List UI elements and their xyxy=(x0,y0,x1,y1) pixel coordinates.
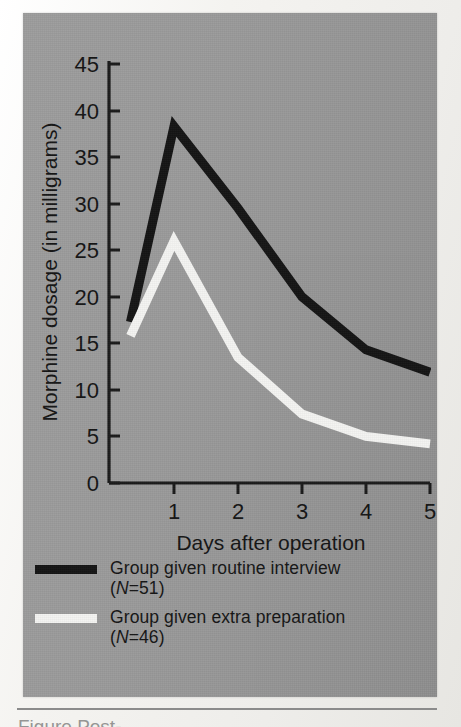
y-axis-title: Morphine dosage (in milligrams) xyxy=(38,123,61,422)
legend-label: Group given extra preparation (N=46) xyxy=(110,607,345,647)
y-tick-label: 30 xyxy=(75,192,99,217)
y-tick-label: 0 xyxy=(87,471,99,496)
series-layer xyxy=(130,126,430,444)
x-axis-tick-labels: 1 2 3 4 5 xyxy=(168,499,436,524)
x-axis-ticks xyxy=(174,483,430,494)
legend-label-line1: Group given extra preparation xyxy=(110,607,345,627)
legend-label-n: (N=46) xyxy=(110,627,345,647)
y-axis-ticks xyxy=(109,64,120,483)
y-tick-label: 10 xyxy=(75,378,99,403)
legend-swatch-black-line-icon xyxy=(35,565,97,574)
legend-item: Group given extra preparation (N=46) xyxy=(35,607,435,647)
y-tick-label: 35 xyxy=(75,145,99,170)
x-tick-label: 5 xyxy=(424,499,436,524)
page-background: 0 5 10 15 20 25 30 35 40 45 1 xyxy=(0,0,461,727)
line-chart: 0 5 10 15 20 25 30 35 40 45 1 xyxy=(23,13,437,558)
legend-n-value: =46) xyxy=(129,627,165,647)
caption-text: Figure Post- xyxy=(18,716,438,727)
figure-panel: 0 5 10 15 20 25 30 35 40 45 1 xyxy=(23,13,437,697)
legend-label-line1: Group given routine interview xyxy=(110,558,341,578)
x-tick-label: 1 xyxy=(168,499,180,524)
legend-item: Group given routine interview (N=51) xyxy=(35,558,435,598)
x-tick-label: 3 xyxy=(296,499,308,524)
y-tick-label: 25 xyxy=(75,238,99,263)
legend-swatch-white-line-icon xyxy=(35,614,97,623)
y-tick-label: 20 xyxy=(75,285,99,310)
y-axis-tick-labels: 0 5 10 15 20 25 30 35 40 45 xyxy=(75,52,99,496)
legend-label: Group given routine interview (N=51) xyxy=(110,558,341,598)
legend-n-symbol: N xyxy=(116,627,129,647)
x-axis-title: Days after operation xyxy=(176,531,365,554)
y-tick-label: 40 xyxy=(75,99,99,124)
legend-label-n: (N=51) xyxy=(110,578,341,598)
x-tick-label: 4 xyxy=(360,499,372,524)
y-tick-label: 45 xyxy=(75,52,99,77)
caption-divider-rule xyxy=(17,708,437,710)
legend-n-symbol: N xyxy=(116,578,129,598)
chart-legend: Group given routine interview (N=51) Gro… xyxy=(35,558,435,656)
y-tick-label: 5 xyxy=(87,424,99,449)
y-tick-label: 15 xyxy=(75,331,99,356)
x-tick-label: 2 xyxy=(232,499,244,524)
legend-n-value: =51) xyxy=(129,578,165,598)
